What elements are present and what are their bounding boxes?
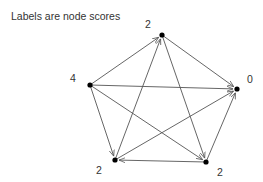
node-right	[234, 86, 239, 91]
node-left	[87, 82, 92, 87]
edge-bottom_left-to-top	[116, 39, 161, 158]
edge-bottom_left-to-right	[117, 91, 234, 159]
edge-left-to-bottom_right	[92, 86, 203, 160]
node-bottom_left	[112, 157, 117, 162]
edge-bottom_right-to-bottom_left	[119, 160, 204, 162]
node-score-left: 4	[70, 72, 76, 84]
edge-left-to-top	[92, 37, 159, 84]
edge-left-to-right	[92, 85, 233, 89]
edge-top-to-right	[164, 36, 234, 86]
node-top	[159, 32, 164, 37]
edges	[91, 36, 236, 162]
edge-bottom_right-to-right	[207, 93, 236, 160]
node-score-bottom-left: 2	[96, 164, 102, 176]
edge-top-to-bottom_right	[163, 37, 205, 158]
directed-graph	[0, 0, 263, 182]
node-bottom_right	[203, 159, 208, 164]
node-score-right: 0	[247, 73, 253, 85]
edge-left-to-bottom_left	[91, 87, 114, 156]
node-score-top: 2	[145, 18, 151, 30]
node-score-bottom-right: 2	[217, 166, 223, 178]
